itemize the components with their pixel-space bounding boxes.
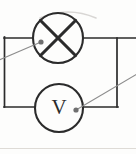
lamp-callout-dot — [38, 39, 43, 44]
voltmeter-label: V — [51, 95, 66, 119]
voltmeter-callout-dot — [73, 107, 78, 112]
circuit-diagram-canvas: V — [0, 0, 136, 154]
circuit-diagram-svg: V — [0, 0, 136, 154]
voltmeter-callout-leader-line — [76, 70, 136, 110]
lamp-symbol — [33, 13, 83, 63]
lamp-callout-leader-line — [0, 42, 41, 63]
